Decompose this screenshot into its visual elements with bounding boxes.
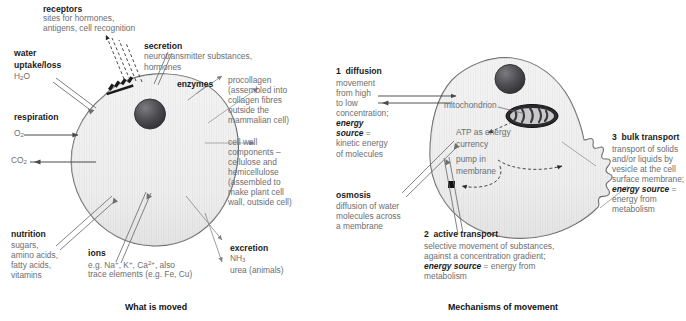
left-cell-body: [71, 74, 238, 246]
nutrition-line-3: vitamins: [11, 270, 81, 280]
cellwall-line-3: hemicellulose: [228, 167, 326, 177]
nutrition-text: sugars, amino acids, fatty acids, vitami…: [11, 240, 81, 280]
water-arrow: [53, 78, 96, 114]
cellwall-line-6: wall, outside cell): [228, 197, 326, 207]
osmosis-text: diffusion of water molecules across a me…: [336, 201, 440, 231]
diffusion-line-1: from high: [336, 88, 414, 98]
osmosis-line-0: diffusion of water: [336, 201, 440, 211]
water-formula: H2O: [14, 72, 30, 82]
diffusion-line-0: movement: [336, 78, 414, 88]
bulk-line-0: transport of solids: [612, 144, 686, 154]
water-title-2: uptake/loss: [14, 60, 61, 70]
atp-label-line-1: ATP as energy: [456, 128, 511, 138]
secretion-line-2: hormones: [144, 63, 181, 73]
active-transport-title: 2 active transport: [424, 229, 498, 239]
nutrition-line-0: sugars,: [11, 240, 81, 250]
osmosis-line-1: molecules across: [336, 211, 440, 221]
excretion-nh3: NH3: [230, 254, 246, 264]
cellwall-line-0: cell wall: [228, 137, 326, 147]
diffusion-line-4: kinetic energy: [336, 138, 414, 148]
receptors-line-2: antigens, cell recognition: [43, 24, 135, 34]
left-caption: What is moved: [125, 302, 187, 312]
bulk-line-3: surface membrane;: [612, 174, 686, 184]
right-caption: Mechanisms of movement: [448, 302, 558, 312]
respiration-co2: CO2: [11, 156, 27, 166]
bulk-line-5: metabolism: [612, 204, 686, 214]
cellwall-line-4: (assembled to: [228, 177, 326, 187]
nutrition-title: nutrition: [11, 229, 46, 239]
bulk-line-4: energy from: [612, 194, 686, 204]
active-line-2: against a concentration gradient;: [424, 251, 614, 261]
pump-label-line-2: membrane: [456, 167, 496, 177]
bulk-line-1: and/or liquids by: [612, 154, 686, 164]
diffusion-equals: =: [366, 128, 371, 138]
active-energy-rest: = energy from: [481, 261, 535, 271]
procollagen-line-1: (assembled into: [228, 85, 324, 95]
diffusion-text: movement from high to low concentration;…: [336, 78, 414, 159]
procollagen-line-2: collagen fibres: [228, 95, 324, 105]
nutrition-line-2: fatty acids,: [11, 260, 81, 270]
nutrition-line-1: amino acids,: [11, 250, 81, 260]
diffusion-line-2: to low: [336, 98, 414, 108]
cellwall-line-2: cellulose and: [228, 157, 326, 167]
bulk-line-2: vesicle at the cell: [612, 164, 686, 174]
active-transport-text: selective movement of substances, agains…: [424, 241, 614, 281]
procollagen-text: procollagen (assembled into collagen fib…: [228, 75, 324, 125]
receptor-arrows: [106, 35, 142, 82]
diffusion-energy-word-1: energy: [336, 118, 363, 128]
bulk-equals: =: [672, 184, 677, 194]
cellwall-line-5: make plant cell: [228, 187, 326, 197]
bulk-transport-text: transport of solids and/or liquids by ve…: [612, 144, 686, 215]
atp-label-line-2: currency: [456, 140, 488, 150]
active-line-1: selective movement of substances,: [424, 241, 614, 251]
pump-label-line-1: pump in: [456, 155, 486, 165]
excretion-title: excretion: [230, 243, 268, 253]
diffusion-line-5: of molecules: [336, 149, 414, 159]
procollagen-line-4: mammalian cell): [228, 115, 324, 125]
cell-wall-text: cell wall components – cellulose and hem…: [228, 137, 326, 208]
cellwall-line-1: components –: [228, 147, 326, 157]
enzymes-title: enzymes: [177, 79, 213, 89]
ions-title: ions: [88, 248, 106, 258]
left-cell-nucleus: [135, 99, 166, 129]
right-cell-nucleus: [495, 65, 525, 94]
bulk-transport-title: 3 bulk transport: [612, 132, 679, 142]
excretion-urea: urea (animals): [230, 266, 284, 276]
active-line-3: metabolism: [424, 271, 614, 281]
water-title-1: water: [14, 48, 36, 58]
secretion-line-1: neurotransmitter substances,: [144, 52, 252, 62]
diffusion-title: 1 diffusion: [336, 66, 382, 76]
active-energy-label: energy source: [424, 261, 481, 271]
procollagen-line-0: procollagen: [228, 75, 324, 85]
osmosis-title: osmosis: [336, 190, 371, 200]
diffusion-line-3: concentration;: [336, 108, 414, 118]
secretion-title: secretion: [144, 41, 182, 51]
mitochondrion-label: mitochondrion: [444, 101, 497, 111]
respiration-title: respiration: [14, 112, 58, 122]
ions-line-2: trace elements (e.g. Fe, Cu): [88, 270, 192, 280]
diffusion-energy-word-2: source: [336, 128, 363, 138]
procollagen-line-3: outside the: [228, 105, 324, 115]
respiration-o2: O2: [14, 129, 24, 139]
bulk-energy-label: energy source: [612, 184, 669, 194]
mitochondrion-organelle: [506, 105, 558, 128]
